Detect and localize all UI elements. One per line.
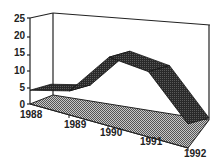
x-tick-label: 1990 xyxy=(100,127,123,138)
y-tick-label: 10 xyxy=(14,65,26,76)
x-tick-label: 1992 xyxy=(184,148,207,159)
chart: 0510152025 19881989199019911992 xyxy=(0,0,221,162)
y-axis xyxy=(27,18,30,104)
y-tick-label: 15 xyxy=(14,47,26,58)
x-tick-label: 1989 xyxy=(64,119,87,130)
x-tick-label: 1988 xyxy=(20,109,43,120)
y-tick-label: 5 xyxy=(19,82,25,93)
x-tick-label: 1991 xyxy=(140,136,163,147)
y-tick-label: 25 xyxy=(14,13,26,24)
y-tick-label: 20 xyxy=(14,30,26,41)
y-tick-labels: 0510152025 xyxy=(14,13,26,110)
